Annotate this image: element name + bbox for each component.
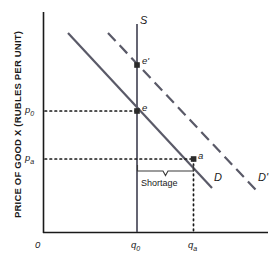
supply-demand-chart: PRICE OF GOOD X (RUBLES PER UNIT) 0 p0 p…	[0, 0, 279, 266]
point-label-e-prime: e'	[142, 56, 149, 66]
y-axis-title: PRICE OF GOOD X (RUBLES PER UNIT)	[13, 31, 23, 218]
point-label-a: a	[198, 151, 203, 161]
point-marker-e	[134, 108, 140, 114]
shortage-label: Shortage	[141, 179, 178, 188]
y-tick-p0-subscript: 0	[30, 110, 34, 117]
point-marker-e-prime	[134, 62, 140, 68]
origin-label: 0	[35, 240, 40, 250]
x-tick-qa: qa	[188, 240, 197, 252]
point-label-e: e	[142, 103, 147, 113]
curve-label-D: D	[214, 172, 222, 183]
curve-label-D-prime: D'	[258, 172, 268, 183]
x-tick-q0: q0	[131, 240, 140, 252]
x-tick-qa-subscript: a	[193, 245, 197, 252]
point-marker-a	[191, 156, 197, 162]
y-tick-p0: p0	[25, 105, 34, 117]
y-tick-pa-subscript: a	[30, 158, 34, 165]
shortage-bracket	[138, 165, 194, 176]
curve-label-S: S	[140, 15, 147, 26]
x-tick-q0-subscript: 0	[136, 245, 140, 252]
y-tick-pa: pa	[25, 153, 34, 165]
chart-canvas	[0, 0, 279, 266]
